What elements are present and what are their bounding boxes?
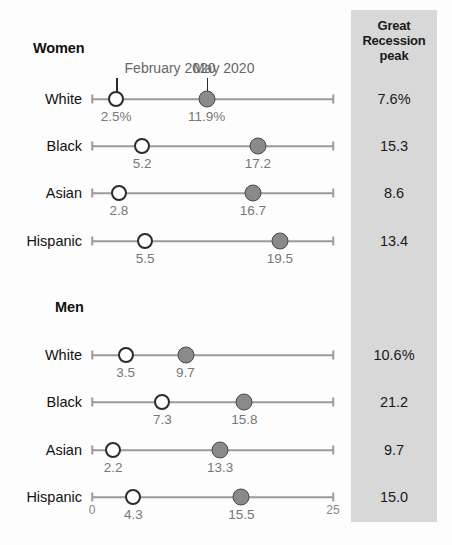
- dot-february-2020[interactable]: [125, 489, 141, 505]
- dot-february-2020[interactable]: [154, 394, 170, 410]
- value-label-february-2020: 2.5%: [101, 109, 132, 124]
- dot-may-2020[interactable]: [271, 233, 288, 250]
- value-label-may-2020: 13.3: [207, 460, 233, 475]
- axis-tick-start: [91, 446, 93, 455]
- section-title-men: Men: [55, 299, 84, 315]
- row-category-label: White: [0, 347, 82, 363]
- axis-tick-start: [91, 189, 93, 198]
- axis-tick-end: [332, 351, 334, 360]
- row-category-label: Hispanic: [0, 233, 82, 249]
- axis-tick-end: [332, 237, 334, 246]
- dot-february-2020[interactable]: [108, 91, 124, 107]
- axis-tick-start: [91, 142, 93, 151]
- row-axis-line: [92, 145, 333, 147]
- value-label-february-2020: 5.5: [136, 251, 155, 266]
- value-label-may-2020: 15.8: [231, 412, 257, 427]
- axis-label-max: 25: [326, 503, 339, 517]
- dot-may-2020[interactable]: [233, 489, 250, 506]
- great-recession-peak-value: 7.6%: [351, 91, 437, 107]
- row-category-label: Black: [0, 138, 82, 154]
- dot-may-2020[interactable]: [212, 442, 229, 459]
- great-recession-peak-value: 15.3: [351, 138, 437, 154]
- value-label-may-2020: 16.7: [240, 203, 266, 218]
- row-category-label: Black: [0, 394, 82, 410]
- great-recession-peak-value: 9.7: [351, 442, 437, 458]
- callout-label-may: May 2020: [193, 60, 254, 76]
- value-label-february-2020: 7.3: [153, 412, 172, 427]
- peak-header-line-3: peak: [351, 48, 437, 63]
- row-axis-line: [92, 401, 333, 403]
- value-label-february-2020: 5.2: [133, 156, 152, 171]
- value-label-may-2020: 9.7: [176, 365, 195, 380]
- row-category-label: Asian: [0, 185, 82, 201]
- row-axis-line: [92, 240, 333, 242]
- dot-may-2020[interactable]: [198, 91, 215, 108]
- value-label-february-2020: 3.5: [116, 365, 135, 380]
- peak-panel-header: Great Recession peak: [351, 18, 437, 63]
- dot-february-2020[interactable]: [134, 138, 150, 154]
- row-category-label: Asian: [0, 442, 82, 458]
- dot-february-2020[interactable]: [137, 233, 153, 249]
- section-title-women: Women: [33, 40, 85, 56]
- dot-may-2020[interactable]: [236, 394, 253, 411]
- axis-tick-start: [91, 493, 93, 502]
- dot-february-2020[interactable]: [111, 185, 127, 201]
- axis-tick-start: [91, 351, 93, 360]
- value-label-may-2020: 17.2: [245, 156, 271, 171]
- dot-may-2020[interactable]: [249, 138, 266, 155]
- peak-header-line-2: Recession: [351, 33, 437, 48]
- great-recession-peak-value: 15.0: [351, 489, 437, 505]
- value-label-may-2020: 15.5: [228, 507, 254, 522]
- axis-tick-end: [332, 189, 334, 198]
- great-recession-peak-value: 21.2: [351, 394, 437, 410]
- axis-tick-start: [91, 398, 93, 407]
- value-label-may-2020: 19.5: [267, 251, 293, 266]
- axis-tick-start: [91, 237, 93, 246]
- great-recession-peak-value: 8.6: [351, 185, 437, 201]
- axis-tick-end: [332, 493, 334, 502]
- value-label-february-2020: 2.2: [104, 460, 123, 475]
- axis-label-min: 0: [89, 503, 96, 517]
- axis-tick-end: [332, 142, 334, 151]
- row-category-label: White: [0, 91, 82, 107]
- row-category-label: Hispanic: [0, 489, 82, 505]
- dumbbell-chart: Great Recession peak Women Men February …: [0, 0, 452, 545]
- dot-february-2020[interactable]: [118, 347, 134, 363]
- value-label-february-2020: 2.8: [110, 203, 129, 218]
- axis-tick-end: [332, 398, 334, 407]
- axis-tick-end: [332, 95, 334, 104]
- axis-tick-end: [332, 446, 334, 455]
- row-axis-line: [92, 192, 333, 194]
- great-recession-peak-value: 13.4: [351, 233, 437, 249]
- value-label-february-2020: 4.3: [124, 507, 143, 522]
- dot-may-2020[interactable]: [244, 185, 261, 202]
- great-recession-peak-value: 10.6%: [351, 347, 437, 363]
- value-label-may-2020: 11.9%: [188, 109, 225, 124]
- axis-tick-start: [91, 95, 93, 104]
- peak-header-line-1: Great: [351, 18, 437, 33]
- dot-may-2020[interactable]: [177, 347, 194, 364]
- dot-february-2020[interactable]: [105, 442, 121, 458]
